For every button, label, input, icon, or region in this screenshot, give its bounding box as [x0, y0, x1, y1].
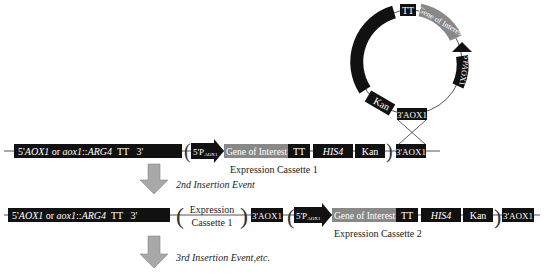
plasmid-tt-label: TT: [402, 5, 414, 16]
svg-text:): ): [386, 140, 393, 163]
svg-text:HIS4: HIS4: [430, 210, 452, 221]
row1-locus-label: 5'AOX1 or aox1::ARG4 TT 3': [18, 146, 143, 157]
row2-gene-label: Gene of Interest: [334, 211, 396, 221]
integration-diagram: HIS4 TT Gene of Interest 5'PAOX1 3'AOX1 …: [0, 0, 544, 280]
plasmid-gene-label: Gene of Interest: [417, 5, 467, 39]
svg-text:): ): [240, 203, 248, 229]
svg-text:3'AOX1: 3'AOX1: [252, 211, 282, 221]
row1-construct: 5'AOX1 or aox1::ARG4 TT 3' ( 5'PAOX1 Gen…: [4, 139, 440, 175]
svg-text:3'AOX1: 3'AOX1: [396, 147, 426, 157]
svg-text:TT: TT: [401, 210, 413, 221]
down-arrow-2: 3rd Insertion Event,etc.: [140, 236, 270, 268]
row1-gene-label: Gene of Interest: [226, 147, 288, 157]
svg-text:TT: TT: [293, 146, 305, 157]
svg-text:(: (: [176, 203, 184, 229]
row2-cassette-label: Expression: [190, 204, 234, 215]
svg-text:(: (: [184, 140, 191, 163]
row2-locus-label: 5'AOX1 or aox1::ARG4 TT 3': [12, 210, 137, 221]
row2-caption: Expression Cassette 2: [334, 228, 422, 239]
arrow2-label: 3rd Insertion Event,etc.: [175, 252, 270, 263]
svg-text:Cassette 1: Cassette 1: [192, 217, 233, 228]
svg-text:3'AOX1: 3'AOX1: [503, 211, 533, 221]
plasmid: HIS4 TT Gene of Interest 5'PAOX1 3'AOX1 …: [357, 4, 472, 144]
plasmid-3aox1-label: 3'AOX1: [397, 110, 427, 120]
svg-text:HIS4: HIS4: [322, 146, 344, 157]
row1-caption: Expression Cassette 1: [230, 164, 318, 175]
svg-text:): ): [494, 204, 501, 229]
svg-text:Kan: Kan: [470, 210, 487, 221]
svg-text:(: (: [287, 204, 294, 229]
svg-text:Kan: Kan: [362, 146, 379, 157]
plasmid-promoter-arrowhead: [452, 42, 472, 52]
row2-construct: 5'AOX1 or aox1::ARG4 TT 3' ( Expression …: [4, 203, 540, 239]
arrow1-label: 2nd Insertion Event: [176, 179, 255, 190]
